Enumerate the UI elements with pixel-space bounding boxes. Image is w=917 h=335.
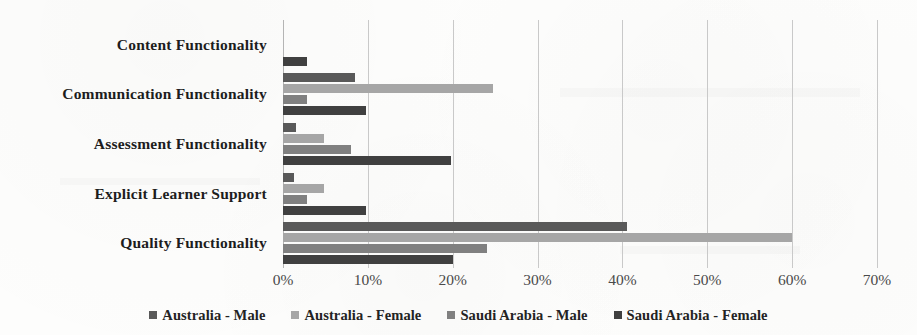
gridline-70	[877, 20, 878, 268]
legend-item[interactable]: Australia - Male	[149, 307, 265, 324]
y-axis-labels: Content FunctionalityCommunication Funct…	[0, 20, 275, 268]
x-axis-tick-label: 30%	[523, 271, 551, 289]
chart-legend: Australia - MaleAustralia - FemaleSaudi …	[0, 303, 917, 327]
legend-item[interactable]: Saudi Arabia - Male	[447, 307, 587, 324]
plot-area	[283, 20, 877, 268]
bar	[283, 184, 324, 193]
y-axis-label: Communication Functionality	[62, 85, 267, 103]
bar	[283, 84, 493, 93]
bar	[283, 95, 307, 104]
bar	[283, 145, 351, 154]
bar	[283, 156, 451, 165]
legend-swatch-icon	[291, 311, 299, 319]
legend-label: Saudi Arabia - Male	[460, 307, 587, 324]
x-axis-tick-label: 60%	[778, 271, 806, 289]
bar-group	[283, 218, 877, 268]
bar	[283, 233, 792, 242]
y-axis-label: Quality Functionality	[120, 234, 267, 252]
x-axis-tick-label: 70%	[863, 271, 891, 289]
bar	[283, 195, 307, 204]
legend-item[interactable]: Saudi Arabia - Female	[614, 307, 768, 324]
bar	[283, 244, 487, 253]
bar	[283, 106, 366, 115]
legend-swatch-icon	[149, 311, 157, 319]
y-axis-label: Assessment Functionality	[94, 135, 267, 153]
y-axis-label: Explicit Learner Support	[95, 185, 267, 203]
y-axis-label: Content Functionality	[117, 36, 267, 54]
x-axis-tick-label: 10%	[354, 271, 382, 289]
legend-item[interactable]: Australia - Female	[291, 307, 421, 324]
x-axis-tick-label: 0%	[273, 271, 294, 289]
bar-chart: Content FunctionalityCommunication Funct…	[0, 0, 917, 335]
bar-group	[283, 20, 877, 70]
bar	[283, 255, 453, 264]
legend-label: Saudi Arabia - Female	[627, 307, 768, 324]
bar	[283, 123, 296, 132]
bar	[283, 206, 366, 215]
bar-group	[283, 119, 877, 169]
bar	[283, 173, 294, 182]
x-axis-tick-label: 40%	[608, 271, 636, 289]
bar	[283, 57, 307, 66]
x-axis-tick-label: 20%	[438, 271, 466, 289]
x-axis-tick-label: 50%	[693, 271, 721, 289]
bar-group	[283, 70, 877, 120]
legend-swatch-icon	[614, 311, 622, 319]
legend-label: Australia - Male	[162, 307, 265, 324]
bar	[283, 222, 627, 231]
bar-group	[283, 169, 877, 219]
x-axis-tick-labels: 0%10%20%30%40%50%60%70%	[283, 271, 877, 295]
bar	[283, 134, 324, 143]
legend-swatch-icon	[447, 311, 455, 319]
bar	[283, 73, 355, 82]
legend-label: Australia - Female	[304, 307, 421, 324]
